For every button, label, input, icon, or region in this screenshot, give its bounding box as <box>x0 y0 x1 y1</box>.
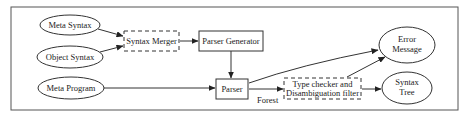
diagram-canvas: Meta Syntax Object Syntax Meta Program S… <box>0 0 471 120</box>
node-parser: Parser <box>216 79 248 99</box>
node-syntax-tree-label-line1: Syntax <box>395 77 419 87</box>
node-meta-syntax-label: Meta Syntax <box>48 20 92 30</box>
node-parser-generator: Parser Generator <box>199 31 263 51</box>
edge-typechecker-to-error <box>347 57 385 77</box>
node-error-message: Error Message <box>379 27 435 63</box>
edge-label-forest: Forest <box>257 95 279 105</box>
node-object-syntax-label: Object Syntax <box>46 52 95 62</box>
node-parser-label: Parser <box>221 84 242 94</box>
node-type-checker: Type checker and Disambiguation filter <box>284 78 361 99</box>
node-meta-syntax: Meta Syntax <box>40 15 100 35</box>
node-syntax-merger-label: Syntax Merger <box>126 36 177 46</box>
node-syntax-merger: Syntax Merger <box>124 31 179 51</box>
node-syntax-tree-label-line2: Tree <box>399 87 414 97</box>
edge-object-syntax-to-merger <box>100 46 123 52</box>
node-error-message-label-line2: Message <box>392 44 422 54</box>
node-meta-program: Meta Program <box>38 77 104 99</box>
node-meta-program-label: Meta Program <box>47 83 96 93</box>
node-object-syntax: Object Syntax <box>37 46 103 68</box>
node-syntax-tree: Syntax Tree <box>382 72 432 104</box>
node-parser-generator-label: Parser Generator <box>202 36 260 46</box>
edge-meta-syntax-to-merger <box>98 29 123 36</box>
node-type-checker-label-line2: Disambiguation filter <box>286 88 359 98</box>
node-error-message-label-line1: Error <box>398 34 416 44</box>
